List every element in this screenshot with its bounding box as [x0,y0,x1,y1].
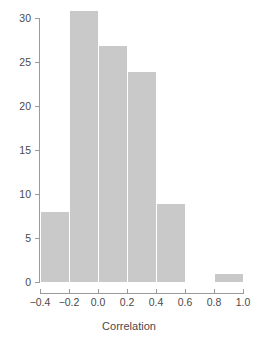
x-axis-title: Correlation [102,320,156,332]
x-tick-label: 0.4 [149,296,164,308]
correlation-histogram: 051015202530 −0.4−0.20.00.20.40.60.81.0 … [0,0,258,339]
x-tick-label: 1.0 [236,296,251,308]
histogram-bar [214,273,243,282]
histogram-figure: 051015202530 −0.4−0.20.00.20.40.60.81.0 … [0,0,258,339]
x-tick-label: 0.0 [91,296,106,308]
y-tick-label: 30 [19,12,31,24]
x-tick-label: 0.8 [207,296,222,308]
histogram-bar [127,71,156,282]
y-tick-label: 15 [19,144,31,156]
x-tick-label: −0.2 [59,296,80,308]
y-tick-label: 5 [25,232,31,244]
y-tick-label: 25 [19,56,31,68]
x-tick-label: 0.2 [120,296,135,308]
y-tick-label: 0 [25,276,31,288]
histogram-bar [98,45,127,282]
histogram-bar [40,212,69,282]
histogram-bar [156,203,185,282]
x-tick-label: −0.4 [30,296,51,308]
histogram-bar [69,10,98,282]
y-tick-label: 20 [19,100,31,112]
y-tick-label: 10 [19,188,31,200]
x-tick-label: 0.6 [178,296,193,308]
